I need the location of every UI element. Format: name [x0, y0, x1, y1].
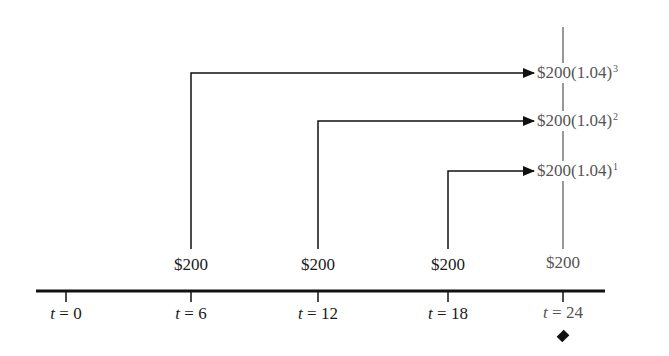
compound-arrow-1	[448, 171, 534, 249]
fv-label-1: $200(1.04)1	[537, 162, 618, 179]
tick-label-t24: t = 24	[543, 304, 583, 321]
compound-arrow-3	[191, 73, 534, 249]
payment-label-t18: $200	[431, 256, 465, 273]
fv-label-2: $200(1.04)2	[537, 112, 618, 129]
payment-label-t24: $200	[546, 254, 580, 271]
payment-label-t6: $200	[174, 256, 208, 273]
tick-label-t12: t = 12	[298, 305, 338, 322]
tick-label-t6: t = 6	[175, 305, 206, 322]
tick-label-t18: t = 18	[428, 305, 468, 322]
tick-label-t0: t = 0	[50, 305, 81, 322]
payment-label-t12: $200	[301, 256, 335, 273]
compound-arrow-2	[318, 121, 534, 249]
fv-label-3: $200(1.04)3	[537, 64, 618, 81]
